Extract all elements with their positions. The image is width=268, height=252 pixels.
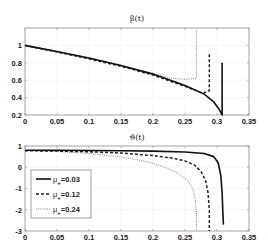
y-tick-label: -2 <box>15 206 22 215</box>
x-tick-label: 0 <box>23 233 27 242</box>
legend-value: =0.03 <box>61 175 80 184</box>
chart-figure: 00.050.10.150.20.250.30.350.20.40.60.81 … <box>0 0 268 252</box>
x-tick-label: 0.3 <box>212 233 222 242</box>
x-tick-label: 0.25 <box>178 117 193 126</box>
legend-value: =0.12 <box>61 190 80 199</box>
y-tick-label: 0.2 <box>12 111 22 120</box>
y-tick-label: 1 <box>18 41 22 50</box>
x-tick-label: 0.35 <box>242 117 257 126</box>
theta-plot-title: ϑ(t) <box>129 133 144 142</box>
x-tick-label: 0.25 <box>178 233 193 242</box>
beta-plot: 00.050.10.150.20.250.30.350.20.40.60.81 … <box>12 14 257 126</box>
x-tick-label: 0.15 <box>114 117 129 126</box>
y-tick-label: 0.4 <box>12 93 23 102</box>
x-tick-label: 0.05 <box>50 233 65 242</box>
y-tick-label: -3 <box>15 227 22 236</box>
x-tick-label: 0.1 <box>84 117 94 126</box>
x-tick-label: 0.35 <box>242 233 257 242</box>
y-tick-label: 0.6 <box>12 76 22 85</box>
x-tick-label: 0.3 <box>212 117 222 126</box>
y-tick-label: 1 <box>18 142 22 151</box>
x-tick-label: 0.2 <box>148 233 158 242</box>
x-tick-label: 0.2 <box>148 117 158 126</box>
y-tick-label: 0.8 <box>12 59 22 68</box>
y-tick-label: 0 <box>18 163 22 172</box>
x-tick-label: 0.05 <box>50 117 65 126</box>
beta-plot-frame <box>25 28 249 115</box>
x-tick-label: 0.1 <box>84 233 94 242</box>
x-tick-label: 0 <box>23 117 27 126</box>
legend: μ+=0.03μ+=0.12μ+=0.24 <box>31 170 91 218</box>
legend-value: =0.24 <box>61 205 81 214</box>
theta-plot: 00.050.10.150.20.250.30.35-3-2-101 ϑ(t) … <box>15 133 256 242</box>
beta-plot-title: β(t) <box>130 14 144 23</box>
x-tick-label: 0.15 <box>114 233 129 242</box>
y-tick-label: -1 <box>15 184 22 193</box>
